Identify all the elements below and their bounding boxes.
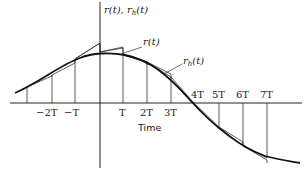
r-label-leader [121,47,142,54]
rh-curve-label: rh(t) [183,55,204,68]
tick-minus-2T: −2T [36,107,58,118]
tick-7T: 7T [260,89,273,100]
y-axis-label: r(t), rh(t) [104,4,148,17]
tick-3T: 3T [164,107,177,118]
tick-2T: 2T [140,107,153,118]
continuous-signal-curve [15,53,300,163]
sample-and-hold-diagram: r(t), rh(t) r(t) rh(t) −2T −T T 2T 3T 4T… [0,0,306,180]
tick-T: T [119,107,126,118]
tick-5T: 5T [212,89,225,100]
rh-label-leader [164,64,182,74]
tick-minus-T: −T [64,107,79,118]
r-curve-label: r(t) [143,36,160,47]
tick-4T: 4T [191,89,204,100]
tick-6T: 6T [236,89,249,100]
x-axis-label: Time [137,122,161,133]
